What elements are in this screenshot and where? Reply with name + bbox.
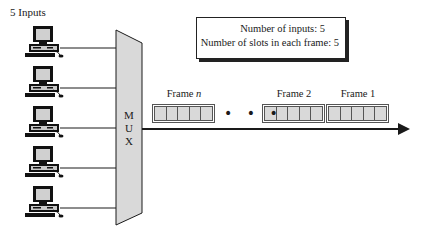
slot [201,107,212,120]
ellipsis: • • • [224,105,283,121]
slot [288,107,300,120]
computer-icon [25,146,64,178]
frame-1-label: Frame 1 [326,88,390,99]
slot [155,107,167,120]
mux-letter-m: M [116,109,142,121]
slot [375,107,386,120]
slot [178,107,190,120]
slot [329,107,341,120]
slot [190,107,202,120]
info-line-inputs: Number of inputs: 5 [197,22,339,36]
slot [167,107,179,120]
info-box: Number of inputs: 5 Number of slots in e… [196,17,346,59]
input-lines [60,48,116,208]
computer-icon [25,26,64,58]
frame-n [152,104,215,123]
computer-icon [25,186,64,218]
slot [311,107,322,120]
computer-icon [25,106,64,138]
mux-letter-u: U [116,122,142,134]
frame-n-label: Frame n [152,88,216,99]
slot [364,107,376,120]
computer-icon [25,66,64,98]
frame-1 [326,104,389,123]
frame-2-label: Frame 2 [262,88,326,99]
slot [341,107,353,120]
output-arrow [142,123,410,135]
slot [352,107,364,120]
info-line-slots: Number of slots in each frame: 5 [197,36,339,50]
slot [300,107,312,120]
mux-letter-x: X [116,135,142,147]
